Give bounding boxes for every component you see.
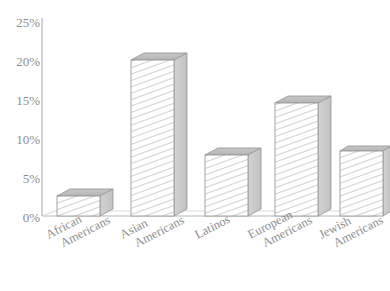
x-label-jewish-americans: Jewish Americans <box>317 201 386 254</box>
x-label-european-americans: European Americans <box>246 201 315 254</box>
x-label-asian-americans: Asian Americans <box>118 201 187 254</box>
x-label-african-americans: African Americans <box>44 201 113 254</box>
x-label-latinos: Latinos <box>193 213 233 242</box>
x-label-line1: Latinos <box>193 212 233 241</box>
bar-chart-figure: 25% 20% 15% 10% 5% 0% <box>0 0 390 291</box>
x-axis-category-labels: African Americans Asian Americans Latino… <box>0 0 390 291</box>
plot-area: 25% 20% 15% 10% 5% 0% <box>0 0 390 291</box>
